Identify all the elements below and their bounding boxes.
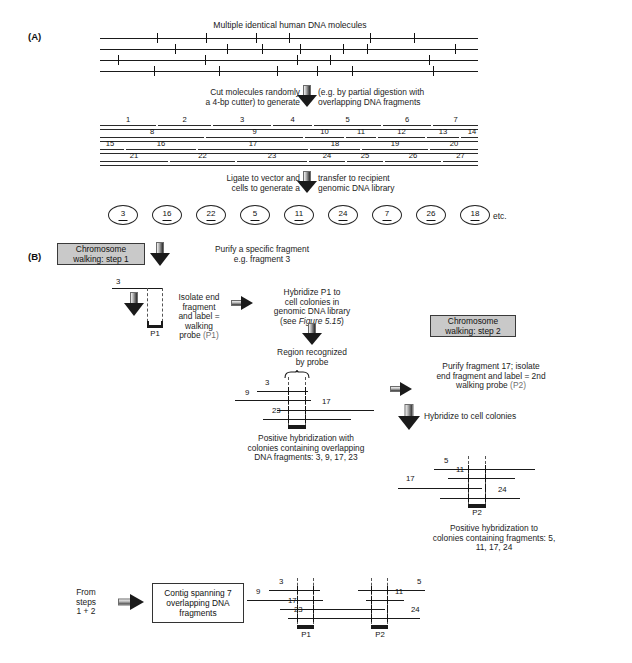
colony-oval[interactable]: 16 — [152, 205, 182, 225]
contig-cut-tick — [387, 614, 388, 622]
right-arrow-contig — [118, 594, 144, 610]
cluster1-cut-tick — [305, 387, 306, 395]
ligate-caption-left: Ligate to vector and cells to generate a — [140, 174, 300, 193]
fragment-row-1-underline — [273, 125, 312, 126]
colony-oval[interactable]: 22 — [196, 205, 226, 225]
fragment3-label: 3 — [116, 278, 120, 286]
contig-fragment-label: 24 — [411, 606, 420, 614]
fragment-row-4-underline — [100, 161, 168, 162]
fragment-number: 26 — [385, 152, 441, 160]
cluster2-cut-tick — [468, 465, 469, 473]
cluster2-cut-tick — [485, 474, 486, 482]
fragment-number: 18 — [310, 140, 360, 148]
isolate-probe-label: (P1) — [203, 330, 219, 340]
restriction-tick — [256, 33, 257, 43]
step2-probe-label: (P2) — [510, 380, 526, 390]
fragment-row-2-underline — [461, 137, 478, 138]
restriction-tick — [414, 33, 415, 43]
cluster2-fragment-label: 5 — [444, 457, 448, 465]
contig-probe-p1-bar — [297, 625, 314, 629]
dna-molecule-3 — [100, 60, 478, 61]
colony-oval[interactable]: 26 — [416, 205, 446, 225]
fragment-row-3-underline — [126, 149, 196, 150]
contig-cut-tick — [313, 614, 314, 622]
restriction-tick — [367, 44, 368, 54]
hybridize-p1-ref-prefix: (see — [280, 316, 299, 326]
fragment-number: 8 — [100, 128, 204, 136]
fragment-number: 17 — [198, 140, 308, 148]
fragment-number: 23 — [237, 152, 307, 160]
panel-a-label: (A) — [28, 31, 41, 42]
colony-underline — [427, 220, 436, 221]
colony-label: 16 — [153, 210, 181, 218]
cluster1-cut-tick — [288, 406, 289, 414]
colony-oval[interactable]: 3 — [108, 205, 138, 225]
fragment-row-4-underline — [443, 161, 478, 162]
contig-cut-tick — [313, 596, 314, 604]
down-arrow-ligate — [297, 171, 317, 193]
contig-fragment-label: 17 — [288, 597, 297, 605]
panel-a-title: Multiple identical human DNA molecules — [120, 20, 460, 30]
down-arrow-hybridize-colonies — [398, 404, 420, 430]
contig-box[interactable]: Contig spanning 7 overlapping DNA fragme… — [152, 583, 244, 623]
contig-probe-p2-bar — [371, 625, 388, 629]
colony-underline — [251, 220, 260, 221]
restriction-tick — [297, 55, 298, 65]
colony-oval[interactable]: 11 — [284, 205, 314, 225]
cluster2-fragment-line — [440, 498, 520, 499]
cluster1-fragment-line — [235, 400, 311, 401]
colony-underline — [119, 220, 128, 221]
hybridize-p1-caption: Hybridize P1 to cell colonies in genomic… — [252, 288, 372, 326]
step2-caption-text: Purify fragment 17; isolate end fragment… — [436, 361, 545, 390]
colony-underline — [295, 220, 304, 221]
colony-label: 26 — [417, 210, 445, 218]
fragment-number: 19 — [362, 140, 428, 148]
cluster1-cut-tick — [288, 387, 289, 395]
cluster1-cut-tick — [305, 415, 306, 423]
colony-label: 11 — [285, 210, 313, 218]
contig-fragment-label: 9 — [256, 588, 260, 596]
restriction-tick — [157, 33, 158, 43]
dna-molecule-4 — [100, 71, 478, 72]
cluster2-fragment-line — [398, 488, 482, 489]
cluster1-caption: Positive hybridization with colonies con… — [224, 434, 388, 463]
fragment-row-4-line — [100, 165, 478, 166]
fragment-row-3-underline — [310, 149, 360, 150]
probe-p1-bar-tip — [161, 321, 163, 327]
colonies-etc-label: etc. — [493, 211, 507, 221]
contig-fragment-line — [288, 618, 368, 619]
cut-caption-right: (e.g. by partial digestion with overlapp… — [318, 88, 498, 107]
fragment-row-3-underline — [198, 149, 308, 150]
step2-box[interactable]: Chromosome walking: step 2 — [430, 315, 516, 337]
colony-oval[interactable]: 5 — [240, 205, 270, 225]
colony-label: 22 — [197, 210, 225, 218]
cluster2-caption: Positive hybridization to colonies conta… — [404, 524, 584, 553]
contig-fragment-line — [368, 618, 420, 619]
cluster2-cut-tick — [485, 494, 486, 502]
fragment-row-2-underline — [427, 137, 459, 138]
colony-oval[interactable]: 24 — [328, 205, 358, 225]
cluster2-cut-tick — [468, 494, 469, 502]
colony-oval[interactable]: 7 — [372, 205, 402, 225]
restriction-tick — [227, 44, 228, 54]
hybridize-colonies-caption: Hybridize to cell colonies — [424, 412, 574, 422]
restriction-tick — [175, 44, 176, 54]
colony-oval[interactable]: 18 — [460, 205, 490, 225]
contig-fragment-label: 23 — [294, 606, 303, 614]
fragment-number: 13 — [427, 128, 459, 136]
fragment-row-1-underline — [213, 125, 271, 126]
restriction-tick — [317, 66, 318, 76]
fragment-row-2-underline — [206, 137, 303, 138]
panel-b-label: (B) — [28, 251, 41, 262]
step1-box[interactable]: Chromosome walking: step 1 — [57, 243, 145, 265]
dna-molecule-2 — [100, 49, 478, 50]
restriction-tick — [205, 55, 206, 65]
fragment-row-2-underline — [305, 137, 344, 138]
cluster2-fragment-label: 11 — [456, 466, 464, 474]
colony-label: 18 — [461, 210, 489, 218]
fragment-row-2-underline — [378, 137, 425, 138]
fragment-number: 12 — [378, 128, 425, 136]
fragment-row-3-underline — [100, 149, 124, 150]
fragment-row-1-underline — [383, 125, 431, 126]
probe-p2-label: P2 — [467, 509, 487, 517]
